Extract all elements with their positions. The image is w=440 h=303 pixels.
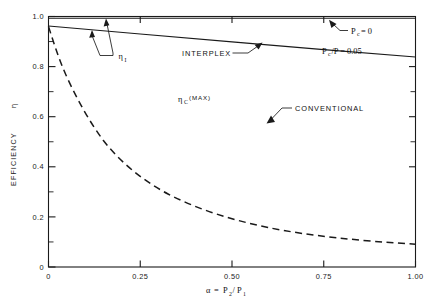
- y-ticklabel-0: 0: [39, 263, 44, 272]
- conventional-label: CONVENTIONAL: [295, 104, 364, 113]
- eta-c-max-label-max: (MAX): [189, 94, 211, 101]
- pc-zero-label-eq: = 0: [361, 27, 372, 36]
- y-ticklabel-0-4: 0.4: [32, 162, 44, 171]
- y-ticklabel-0-8: 0.8: [32, 62, 44, 71]
- pc-ratio-label-rest: /P = 0.05: [332, 47, 362, 56]
- pc-zero-label-p: P: [351, 27, 356, 36]
- x-axis-title: α = P 2 / P 1: [206, 286, 246, 297]
- x-ticklabel-0: 0: [46, 272, 51, 281]
- efficiency-chart-figure: 0 0.2 0.4 0.6 0.8 1.0 0: [0, 0, 440, 303]
- eta-c-max-label-sub: C: [184, 99, 188, 105]
- x-axis-ticklabels: 0 0.25 0.50 0.75 1.00: [46, 272, 423, 281]
- x-ticklabel-0-25: 0.25: [132, 272, 148, 281]
- x-ticklabel-0-75: 0.75: [316, 272, 332, 281]
- pc-zero-label-sub: c: [357, 31, 360, 37]
- x-axis-title-slash: /: [233, 286, 236, 295]
- eta-i-label: η: [119, 52, 123, 61]
- y-ticklabel-1-0: 1.0: [32, 12, 44, 21]
- pc-ratio-label-p: P: [322, 47, 327, 56]
- chart-svg: 0 0.2 0.4 0.6 0.8 1.0 0: [0, 0, 440, 303]
- y-ticklabel-0-2: 0.2: [32, 213, 44, 222]
- x-axis-title-p1: P: [237, 286, 242, 295]
- y-axis-title: EFFICIENCY η: [9, 103, 18, 186]
- x-ticklabel-1-00: 1.00: [407, 272, 423, 281]
- x-axis-title-sub1: 1: [243, 291, 246, 297]
- eta-c-max-label-eta: η: [178, 95, 182, 104]
- y-axis-ticklabels: 0 0.2 0.4 0.6 0.8 1.0: [32, 12, 44, 272]
- y-axis-title-text: EFFICIENCY: [9, 132, 18, 186]
- x-axis-title-p2: P: [223, 286, 228, 295]
- x-axis-title-equals: =: [214, 286, 219, 295]
- x-axis-title-alpha: α: [206, 286, 211, 295]
- y-axis-title-symbol: η: [9, 103, 18, 108]
- interplex-label: INTERPLEX: [182, 49, 231, 58]
- eta-i-label-sub: I: [125, 57, 127, 63]
- x-ticklabel-0-50: 0.50: [224, 272, 240, 281]
- y-ticklabel-0-6: 0.6: [32, 112, 44, 121]
